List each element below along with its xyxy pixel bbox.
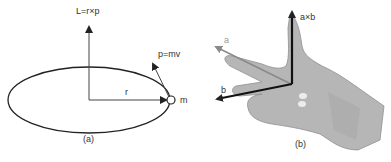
vector-a-label: a	[224, 35, 229, 45]
radius-label: r	[125, 87, 128, 97]
panel-a-orbit-diagram: L=r×p p=mv r m (a)	[8, 6, 188, 144]
momentum-label: p=mv	[158, 49, 181, 59]
cross-product-label: a×b	[300, 12, 315, 22]
panel-a-caption: (a)	[83, 134, 94, 144]
panel-b-right-hand-rule: a b a×b (b)	[216, 12, 384, 150]
panel-b-caption: (b)	[295, 139, 306, 149]
hand-illustration	[225, 14, 384, 150]
figure: L=r×p p=mv r m (a) a b a×b (b)	[0, 0, 391, 162]
mass-label: m	[180, 95, 188, 105]
vector-a-arrow	[216, 47, 291, 84]
knuckle-highlight	[298, 101, 306, 107]
knuckle-highlight	[299, 93, 307, 99]
angular-momentum-label: L=r×p	[76, 6, 100, 16]
mass-circle	[167, 96, 175, 104]
vector-b-label: b	[221, 85, 226, 95]
